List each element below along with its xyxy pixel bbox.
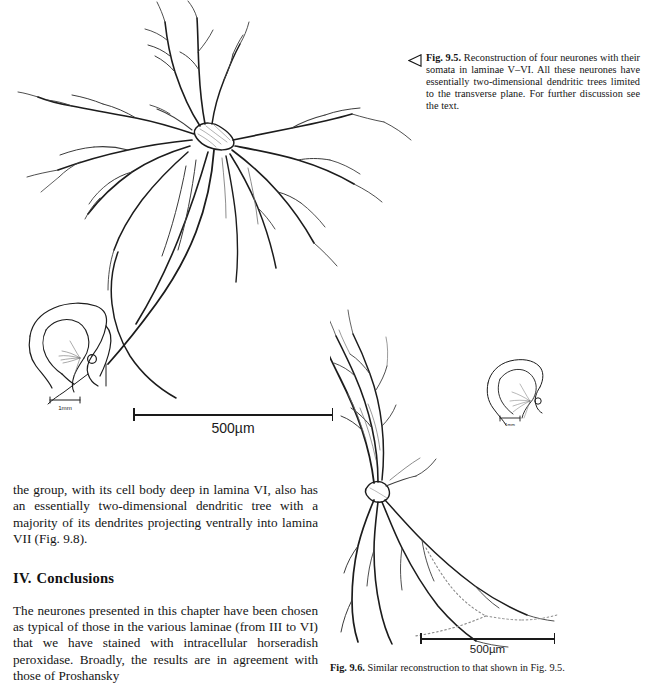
figure-9-6-caption: Fig. 9.6. Similar reconstruction to that… — [330, 662, 640, 674]
figure-9-6-scalebar-label: 500µm — [420, 643, 555, 655]
interrupted-process-96 — [415, 548, 557, 636]
scalebar-line — [133, 414, 333, 416]
figure-9-6-caption-text: Similar reconstruction to that shown in … — [367, 662, 564, 673]
scalebar-line — [420, 638, 555, 640]
section-title: Conclusions — [37, 570, 115, 586]
figure-9-6-inset-cord-section: 1mm — [480, 355, 548, 435]
figure-9-5-caption: Fig. 9.5. Reconstruction of four neurone… — [408, 52, 640, 112]
inset-soma-marker-b — [535, 398, 541, 404]
soma-group-96 — [365, 482, 389, 503]
body-text-column: the group, with its cell body deep in la… — [13, 482, 318, 685]
fig-9-6-drawing — [330, 300, 645, 655]
figure-9-5-scalebar: 500µm — [133, 408, 333, 440]
section-heading: IV.Conclusions — [13, 570, 318, 587]
lateral-branch-96 — [386, 458, 436, 486]
left-triangle-outline-icon — [408, 54, 422, 67]
figure-9-5-scalebar-label: 500µm — [133, 420, 333, 436]
lateral-dendrites-left — [18, 92, 194, 250]
ventral-dendrite-fan-96 — [341, 500, 554, 647]
dorsal-dendrite-fan — [145, 1, 249, 130]
inset-scalebar-a-label: 1mm — [58, 404, 72, 411]
figure-9-5-label: Fig. 9.5. — [426, 52, 461, 63]
section-numeral: IV. — [13, 570, 32, 586]
figure-9-6-neuron-reconstruction — [330, 300, 645, 655]
ascending-dendrite-bundle — [330, 310, 396, 483]
spinal-cord-section-drawing-a: 1mm — [18, 296, 122, 414]
paragraph-conclusions: The neurones presented in this chapter h… — [13, 603, 318, 685]
lateral-dendrites-right — [222, 108, 411, 282]
inset-neuron-miniature-b — [510, 384, 530, 418]
spinal-cord-section-drawing-b: 1mm — [480, 355, 548, 435]
soma-group — [194, 123, 233, 150]
figure-9-6-label: Fig. 9.6. — [330, 662, 365, 673]
paragraph-continued: the group, with its cell body deep in la… — [13, 482, 318, 548]
inset-scalebar-b-label: 1mm — [505, 422, 515, 427]
figure-9-6-scalebar: 500µm — [420, 633, 555, 663]
descending-processes — [108, 150, 214, 398]
figure-9-5-inset-cord-section: 1mm — [18, 296, 122, 414]
